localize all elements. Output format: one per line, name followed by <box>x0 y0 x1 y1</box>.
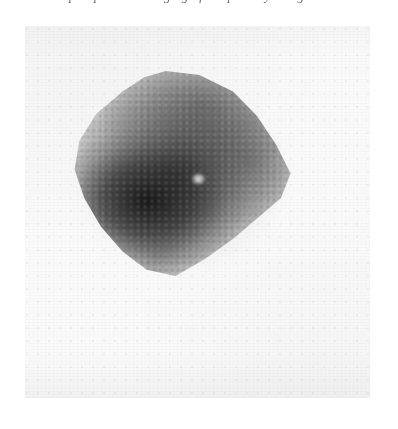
scan-film-panel <box>25 26 370 398</box>
scintigram-page: { "page": { "kind": "medical-scan-figure… <box>0 0 398 429</box>
photopenic-cold-spot <box>192 174 205 184</box>
radiotracer-uptake-region <box>65 71 305 276</box>
caption-text: preoperative imaging of the parathyroid … <box>0 0 398 4</box>
photon-count-speckle-coarse <box>51 59 320 289</box>
cropped-caption-strip: preoperative imaging of the parathyroid … <box>0 0 398 9</box>
